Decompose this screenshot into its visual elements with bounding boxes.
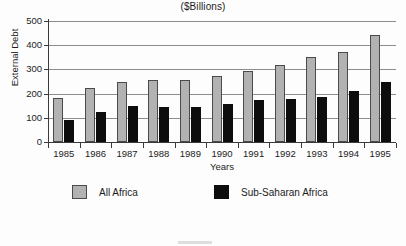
y-axis-tick-label-wrap: 200	[6, 89, 42, 99]
bar-all-africa[interactable]	[275, 65, 285, 142]
y-axis-tick-label-wrap: 500	[6, 16, 42, 26]
external-debt-chart-figure: ($Billions) External Debt 01002003004005…	[0, 0, 406, 246]
y-axis-tick-label: 400	[12, 40, 42, 50]
plot-area: 0100200300400500	[48, 21, 396, 143]
bar-all-africa[interactable]	[85, 88, 95, 142]
bar-all-africa[interactable]	[148, 80, 158, 142]
y-axis-tick	[44, 21, 49, 22]
y-axis-tick-label: 200	[12, 89, 42, 99]
bar-group	[148, 21, 169, 142]
chart-title: ($Billions)	[0, 1, 406, 12]
bar-group	[338, 21, 359, 142]
bar-sub-saharan-africa[interactable]	[64, 120, 74, 142]
bar-sub-saharan-africa[interactable]	[159, 107, 169, 142]
bar-group	[370, 21, 391, 142]
y-axis-tick	[44, 45, 49, 46]
bar-sub-saharan-africa[interactable]	[349, 91, 359, 142]
bar-group	[275, 21, 296, 142]
y-axis-tick-label-wrap: 100	[6, 113, 42, 123]
y-axis-tick-label: 300	[12, 64, 42, 74]
bar-all-africa[interactable]	[180, 80, 190, 142]
bar-sub-saharan-africa[interactable]	[96, 112, 106, 142]
bar-group	[53, 21, 74, 142]
y-axis-tick-label: 0	[12, 137, 42, 147]
bar-group	[117, 21, 138, 142]
y-axis-tick-label-wrap: 0	[6, 137, 42, 147]
bar-group	[180, 21, 201, 142]
bar-group	[306, 21, 327, 142]
bar-group	[243, 21, 264, 142]
y-axis-tick	[44, 69, 49, 70]
legend-item-sub-saharan-africa: Sub-Saharan Africa	[214, 185, 328, 199]
bar-group	[85, 21, 106, 142]
y-axis-line	[48, 19, 49, 144]
bar-sub-saharan-africa[interactable]	[381, 82, 391, 142]
legend-label-sub-saharan-africa: Sub-Saharan Africa	[241, 187, 328, 198]
y-axis-title: External Debt	[9, 18, 20, 98]
bar-all-africa[interactable]	[370, 35, 380, 142]
y-axis-tick	[44, 118, 49, 119]
y-axis-tick-label: 100	[12, 113, 42, 123]
y-axis-tick	[44, 94, 49, 95]
bar-sub-saharan-africa[interactable]	[254, 100, 264, 142]
legend-swatch-all-africa	[72, 185, 87, 199]
bar-all-africa[interactable]	[243, 71, 253, 142]
bar-sub-saharan-africa[interactable]	[191, 107, 201, 142]
bar-sub-saharan-africa[interactable]	[128, 106, 138, 142]
legend-swatch-sub-saharan-africa	[214, 185, 229, 199]
y-axis-tick-label-wrap: 300	[6, 64, 42, 74]
y-axis-tick-label: 500	[12, 16, 42, 26]
bar-all-africa[interactable]	[53, 98, 63, 142]
bar-all-africa[interactable]	[306, 57, 316, 142]
legend-label-all-africa: All Africa	[99, 187, 138, 198]
y-axis-tick-label-wrap: 400	[6, 40, 42, 50]
x-axis-tick-label: 1995	[358, 148, 402, 159]
bar-sub-saharan-africa[interactable]	[317, 97, 327, 142]
bar-sub-saharan-africa[interactable]	[286, 99, 296, 142]
bar-sub-saharan-africa[interactable]	[223, 104, 233, 142]
x-axis-tick	[396, 143, 397, 148]
bar-all-africa[interactable]	[212, 76, 222, 142]
bar-group	[212, 21, 233, 142]
bar-all-africa[interactable]	[338, 52, 348, 143]
x-axis-title: Years	[48, 161, 396, 172]
legend-item-all-africa: All Africa	[72, 185, 138, 199]
scan-artifact	[178, 241, 212, 244]
chart-legend: All Africa Sub-Saharan Africa	[48, 185, 396, 207]
bar-all-africa[interactable]	[117, 82, 127, 142]
